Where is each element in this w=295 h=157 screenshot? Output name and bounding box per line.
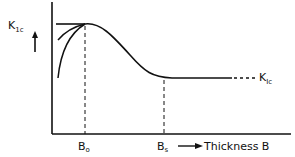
x-axis-label: Thickness B [203,140,269,153]
y-axis-label: K1c [8,19,24,34]
y-arrowhead-icon [32,31,38,38]
x-arrowhead-icon [195,143,203,149]
kic-label: KIc [259,71,272,86]
bs-label: Bs [157,140,169,154]
rising-curve-2 [58,24,85,78]
thickness-diagram: K1c KIc Bo Bs Thickness B [0,0,295,157]
toughness-curve [85,24,232,78]
bo-label: Bo [78,140,90,154]
